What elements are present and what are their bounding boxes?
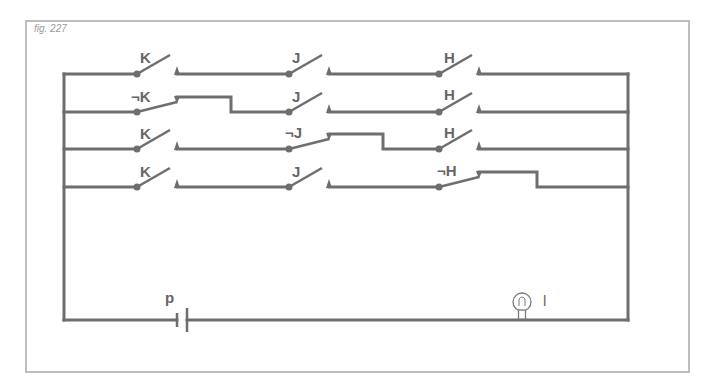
switch-label: H [444,49,455,66]
switch-label: H [444,124,455,141]
switch-labels: K J H ¬K J H K ¬J H K J ¬H [131,49,457,180]
circuit-figure: fig. 227 [0,0,708,391]
switch-label: K [140,163,151,180]
lamp-label: l [543,292,546,309]
figure-caption: fig. 227 [34,23,67,34]
circuit-diagram: K J H ¬K J H K ¬J H K J ¬H p l [0,0,708,391]
switch-label: ¬H [437,162,457,179]
switch-label: K [140,49,151,66]
switch-label: ¬K [131,88,151,105]
open-contacts [174,66,482,188]
switch-label: K [140,125,151,142]
battery-label: p [165,289,174,306]
switch-label: J [292,49,300,66]
lamp-icon [513,293,531,319]
switch-label: H [444,86,455,103]
switch-label: J [292,163,300,180]
switch-label: ¬J [285,124,302,141]
switch-label: J [292,88,300,105]
wires [64,74,628,320]
